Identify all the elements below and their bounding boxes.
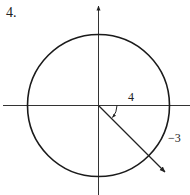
angle-arc-icon xyxy=(113,106,118,118)
problem-number: 4. xyxy=(6,5,17,20)
circle-diagram: 4. 4 −3 xyxy=(0,0,190,195)
x-component-label: 4 xyxy=(128,90,134,104)
terminal-side-arrow xyxy=(99,106,166,173)
y-component-label: −3 xyxy=(168,131,181,145)
